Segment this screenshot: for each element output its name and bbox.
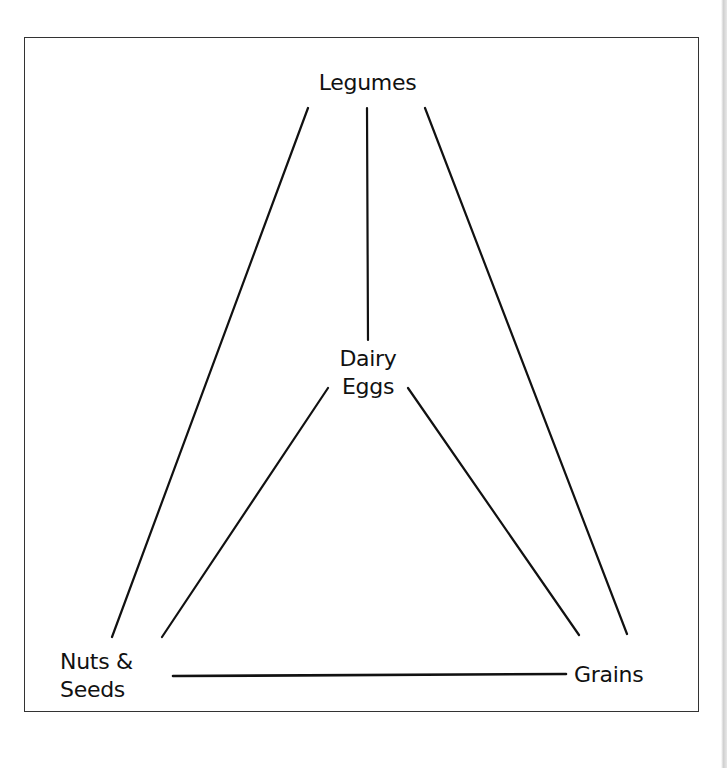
edge-legumes-grains [425, 108, 627, 634]
node-label: Grains [574, 661, 674, 689]
node-label: Dairy [318, 345, 418, 373]
node-label: Nuts & [60, 648, 170, 676]
node-label: Eggs [318, 373, 418, 401]
node-dairy-eggs: Dairy Eggs [318, 345, 418, 401]
node-label: Seeds [60, 676, 170, 704]
node-legumes: Legumes [300, 69, 435, 97]
node-nuts-seeds: Nuts & Seeds [60, 648, 170, 704]
edge-legumes-nuts-seeds [112, 108, 308, 637]
edge-legumes-dairy-eggs [367, 108, 368, 340]
edge-dairy-eggs-grains [408, 388, 579, 635]
edge-dairy-eggs-nuts-seeds [162, 388, 328, 637]
edge-nuts-seeds-grains [173, 674, 566, 676]
node-label: Legumes [300, 69, 435, 97]
node-grains: Grains [574, 661, 674, 689]
